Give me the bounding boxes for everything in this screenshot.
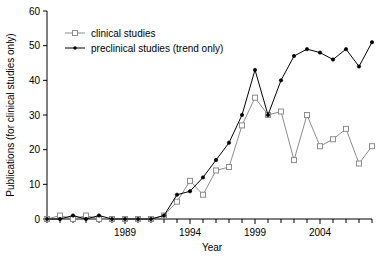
x-tick-label: 1994: [179, 227, 202, 238]
data-point-marker: [201, 192, 206, 197]
legend-label: preclinical studies (trend only): [91, 43, 223, 54]
y-tick-label: 30: [29, 110, 41, 121]
legend-item: preclinical studies (trend only): [65, 43, 223, 54]
data-point-marker: [344, 126, 349, 131]
data-point-marker: [292, 158, 297, 163]
x-tick-label: 2004: [309, 227, 332, 238]
series-line: [47, 42, 372, 219]
y-tick-label: 20: [29, 144, 41, 155]
data-point-marker: [253, 95, 258, 100]
chart-plot: 0102030405060 1989199419992004 clinical …: [0, 0, 383, 256]
data-point-marker: [97, 214, 100, 217]
series-clinical: [45, 95, 375, 221]
data-point-marker: [149, 217, 152, 220]
data-point-marker: [201, 176, 204, 179]
data-point-marker: [175, 193, 178, 196]
data-point-marker: [305, 113, 310, 118]
data-point-marker: [214, 168, 219, 173]
x-axis-ticks: 1989199419992004: [47, 219, 372, 238]
data-point-marker: [123, 217, 126, 220]
data-point-marker: [71, 214, 74, 217]
y-tick-label: 10: [29, 179, 41, 190]
data-point-marker: [188, 190, 191, 193]
data-point-marker: [266, 113, 269, 116]
data-point-marker: [370, 144, 375, 149]
y-axis-ticks: 0102030405060: [29, 6, 47, 225]
data-point-marker: [227, 165, 232, 170]
data-point-marker: [331, 58, 334, 61]
data-point-marker: [318, 144, 323, 149]
data-point-marker: [240, 123, 245, 128]
y-tick-label: 60: [29, 6, 41, 17]
x-tick-label: 1989: [114, 227, 137, 238]
data-point-marker: [331, 137, 336, 142]
data-point-marker: [240, 113, 243, 116]
x-axis-title: Year: [202, 242, 223, 253]
data-point-marker: [175, 199, 180, 204]
data-point-marker: [214, 158, 217, 161]
series-preclinical: [45, 41, 373, 221]
legend-marker: [73, 46, 76, 49]
legend-item: clinical studies: [65, 28, 155, 39]
x-tick-label: 1999: [244, 227, 267, 238]
legend-label: clinical studies: [91, 28, 155, 39]
data-point-marker: [45, 217, 48, 220]
data-point-marker: [279, 79, 282, 82]
data-point-marker: [253, 68, 256, 71]
data-point-marker: [110, 217, 113, 220]
legend-marker: [73, 31, 78, 36]
data-point-marker: [84, 217, 87, 220]
data-point-marker: [305, 47, 308, 50]
data-point-marker: [292, 54, 295, 57]
y-tick-label: 40: [29, 75, 41, 86]
y-tick-label: 50: [29, 40, 41, 51]
y-tick-label: 0: [34, 214, 40, 225]
data-point-marker: [344, 47, 347, 50]
data-point-marker: [370, 41, 373, 44]
chart-container: 0102030405060 1989199419992004 clinical …: [0, 0, 383, 256]
data-point-marker: [136, 217, 139, 220]
series-line: [47, 98, 372, 219]
series-group: [45, 41, 375, 222]
data-point-marker: [58, 217, 61, 220]
data-point-marker: [279, 109, 284, 114]
chart-legend: clinical studiespreclinical studies (tre…: [65, 28, 223, 54]
data-point-marker: [188, 178, 193, 183]
data-point-marker: [162, 214, 165, 217]
y-axis-title: Publications (for clinical studies only): [5, 33, 16, 196]
data-point-marker: [227, 141, 230, 144]
data-point-marker: [318, 51, 321, 54]
data-point-marker: [357, 161, 362, 166]
data-point-marker: [357, 65, 360, 68]
